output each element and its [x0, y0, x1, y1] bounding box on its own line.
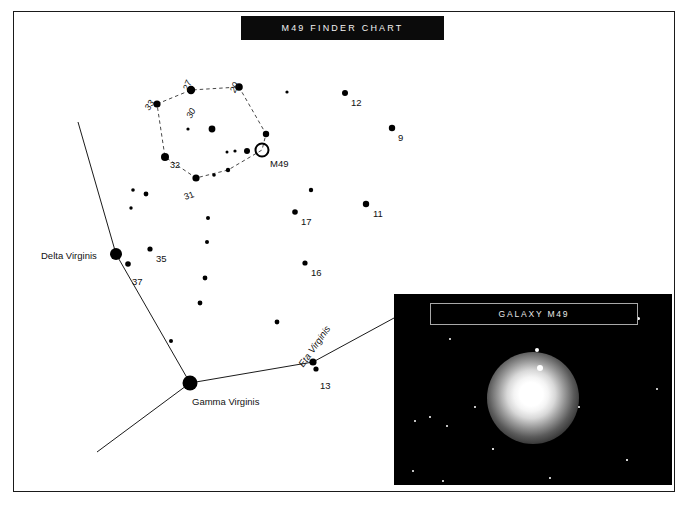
star-dot [144, 192, 149, 197]
star-dot-labeled [192, 174, 199, 181]
m49-marker-ring [256, 144, 269, 157]
star-label-32: 32 [170, 160, 180, 170]
inset-field-star [626, 459, 628, 461]
star-dot [169, 339, 173, 343]
star-dot [205, 240, 209, 244]
inset-caption-text: GALAXY M49 [499, 309, 570, 319]
star-dot [263, 131, 269, 137]
star-dot [209, 126, 216, 133]
star-dot-numbered [342, 90, 348, 96]
inset-field-star [412, 470, 414, 472]
star-dot [129, 206, 132, 209]
star-label-13: 13 [320, 380, 331, 391]
star-dot-numbered [363, 201, 369, 207]
constellation-line [190, 362, 313, 383]
inset-field-star [474, 406, 476, 408]
star-dot [285, 90, 288, 93]
star-dot-numbered [147, 246, 152, 251]
star-label-35: 35 [156, 253, 167, 264]
inset-field-star [429, 416, 431, 418]
constellation-line [116, 254, 190, 383]
star-dot [309, 188, 313, 192]
inset-field-star [549, 477, 551, 479]
page-title: M49 FINDER CHART [281, 23, 403, 33]
star-dot [131, 188, 135, 192]
star-dot [203, 276, 208, 281]
star-dot [206, 216, 210, 220]
star-label-17: 17 [301, 216, 312, 227]
constellation-line [97, 383, 190, 452]
star-label-gamma-virginis: Gamma Virginis [192, 396, 259, 407]
inset-field-star [656, 388, 658, 390]
star-dot-numbered [292, 209, 298, 215]
chart-title-banner: M49 FINDER CHART [241, 16, 444, 40]
star-label-11: 11 [373, 208, 383, 219]
constellation-line [78, 122, 116, 254]
inset-caption-box: GALAXY M49 [430, 303, 638, 325]
star-label-delta-virginis: Delta Virginis [41, 250, 97, 261]
star-dot-named [110, 248, 122, 260]
inset-field-star [414, 420, 416, 422]
star-dot [275, 320, 280, 325]
galaxy-m49-core [487, 352, 579, 444]
m49-label: M49 [270, 158, 288, 169]
star-label-37: 37 [132, 276, 143, 287]
galaxy-companion-star [537, 365, 543, 371]
galaxy-photo-inset: GALAXY M49 [394, 294, 672, 485]
star-dot [233, 149, 236, 152]
star-dot-numbered [389, 125, 395, 131]
star-dot [226, 151, 229, 154]
inset-field-star [449, 338, 451, 340]
inset-field-star [446, 425, 448, 427]
star-dot [226, 168, 230, 172]
star-dot-labeled [161, 153, 169, 161]
star-label-16: 16 [311, 267, 322, 278]
inset-field-star [492, 448, 494, 450]
star-dot [212, 173, 216, 177]
inset-field-star [578, 406, 580, 408]
stars-layer [110, 83, 395, 390]
inset-field-star [442, 480, 444, 482]
star-dot-named [183, 376, 198, 391]
star-label-12: 12 [351, 97, 362, 108]
star-dot [198, 301, 203, 306]
finder-chart-page: M49 FINDER CHART 33273020323112911171635… [0, 0, 688, 510]
star-dot [244, 148, 250, 154]
star-dot-numbered [125, 261, 131, 267]
star-label-9: 9 [398, 132, 403, 143]
star-dot-numbered [302, 260, 307, 265]
star-dot [186, 127, 189, 130]
star-dot-numbered [313, 366, 318, 371]
